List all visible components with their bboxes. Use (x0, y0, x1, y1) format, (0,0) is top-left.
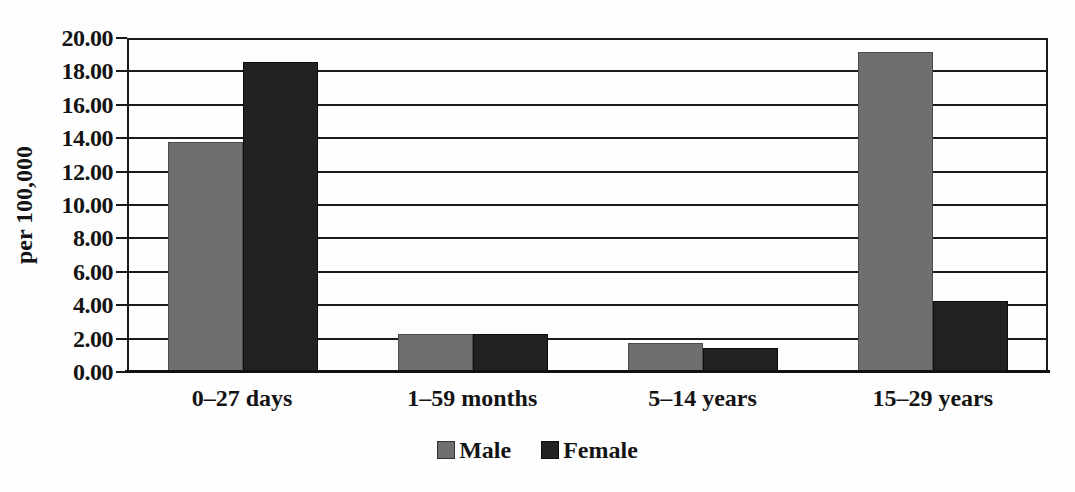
legend-item-male: Male (437, 437, 511, 463)
y-axis-tick-label: 8.00 (33, 226, 113, 250)
bar-female-2 (703, 348, 778, 371)
bar-male-2 (628, 343, 703, 371)
y-axis-tick (116, 237, 127, 239)
y-axis-tick (116, 338, 127, 340)
legend-item-female: Female (541, 437, 638, 463)
y-axis-tick (116, 271, 127, 273)
bar-female-3 (933, 301, 1008, 371)
y-axis-tick-label: 18.00 (33, 59, 113, 83)
y-axis-tick-label: 12.00 (33, 160, 113, 184)
legend-label-male: Male (459, 437, 511, 463)
y-axis-tick-label: 4.00 (33, 293, 113, 317)
bar-female-0 (243, 62, 318, 371)
y-axis-tick (116, 104, 127, 106)
x-axis-category-label-2: 5–14 years (588, 385, 818, 412)
legend-swatch-male (437, 441, 455, 459)
y-axis-tick-label: 16.00 (33, 93, 113, 117)
y-axis-tick (116, 371, 127, 373)
gridline-20.00 (127, 38, 1048, 40)
legend-label-female: Female (563, 437, 638, 463)
y-axis-tick (116, 171, 127, 173)
y-axis-tick-label: 6.00 (33, 260, 113, 284)
y-axis-tick-label: 20.00 (33, 26, 113, 50)
y-axis-tick (116, 304, 127, 306)
y-axis-tick-label: 14.00 (33, 126, 113, 150)
bar-male-3 (858, 52, 933, 371)
y-axis-tick-label: 10.00 (33, 193, 113, 217)
bar-male-1 (398, 334, 473, 371)
legend-swatch-female (541, 441, 559, 459)
bar-male-0 (168, 142, 243, 371)
y-axis-tick (116, 70, 127, 72)
legend: MaleFemale (0, 437, 1075, 463)
bar-female-1 (473, 334, 548, 371)
x-axis-category-label-0: 0–27 days (127, 385, 357, 412)
plot-area (127, 38, 1048, 372)
y-axis-tick-label: 2.00 (33, 327, 113, 351)
x-axis-line (125, 370, 1050, 373)
y-axis-tick (116, 137, 127, 139)
x-axis-category-label-1: 1–59 months (357, 385, 587, 412)
y-axis-tick-label: 0.00 (33, 360, 113, 384)
y-axis-tick (116, 37, 127, 39)
y-axis-tick (116, 204, 127, 206)
bar-chart: per 100,000 20.0018.0016.0014.0012.0010.… (0, 0, 1075, 492)
x-axis-category-label-3: 15–29 years (818, 385, 1048, 412)
